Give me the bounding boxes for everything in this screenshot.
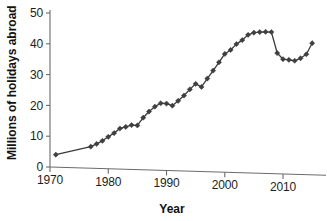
data-point-marker	[292, 58, 297, 63]
data-point-marker	[94, 141, 99, 146]
data-point-marker	[310, 41, 315, 46]
chart-container: 01020304050 19701980199020002010 Million…	[0, 0, 327, 221]
data-point-marker	[251, 30, 256, 35]
data-point-marker	[257, 30, 262, 35]
y-axis: 01020304050	[30, 6, 50, 174]
data-point-marker	[53, 152, 58, 157]
y-tick-label: 10	[30, 129, 43, 143]
data-point-marker	[158, 101, 163, 106]
x-tick-label: 1980	[95, 175, 121, 189]
y-tick-label: 20	[30, 99, 43, 113]
data-point-marker	[123, 124, 128, 129]
data-point-marker	[263, 29, 268, 34]
data-series-group	[53, 29, 315, 157]
y-axis-title: Millions of holidays abroad	[5, 5, 19, 160]
y-tick-label: 50	[30, 6, 43, 20]
y-tick-label: 40	[30, 37, 43, 51]
data-point-marker	[129, 123, 134, 128]
x-tick-label: 2000	[212, 178, 238, 192]
y-tick-label: 30	[30, 68, 43, 82]
data-point-marker	[88, 144, 93, 149]
x-tick-label: 1990	[154, 176, 180, 190]
x-tick-label: 2010	[270, 180, 296, 194]
x-axis: 19701980199020002010	[37, 167, 326, 194]
data-point-marker	[164, 101, 169, 106]
data-point-marker	[286, 57, 291, 62]
y-tick-marks	[46, 13, 50, 167]
x-tick-labels: 19701980199020002010	[37, 173, 296, 194]
data-point-marker	[269, 30, 274, 35]
x-tick-label: 1970	[37, 173, 63, 187]
x-axis-line	[50, 167, 326, 175]
line-chart: 01020304050 19701980199020002010 Million…	[0, 0, 327, 221]
y-tick-labels: 01020304050	[30, 6, 43, 174]
x-axis-title: Year	[159, 202, 185, 216]
